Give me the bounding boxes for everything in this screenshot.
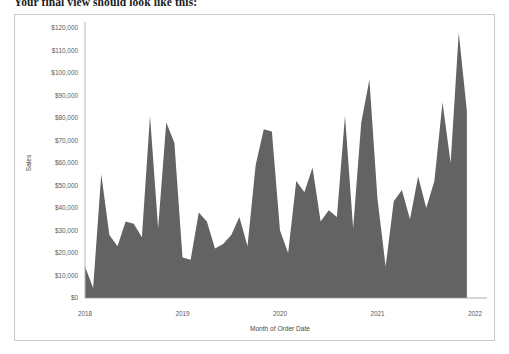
sales-area-chart: $0$10,000$20,000$30,000$40,000$50,000$60…: [15, 15, 494, 340]
y-tick-label: $80,000: [55, 114, 79, 121]
y-tick-label: $0: [71, 294, 79, 301]
screenshot-root: Your final view should look like this: $…: [0, 0, 509, 354]
x-axis-title: Month of Order Date: [250, 325, 310, 332]
y-tick-label: $30,000: [55, 227, 79, 234]
area-series: [85, 33, 467, 299]
y-tick-label: $100,000: [51, 69, 78, 76]
y-tick-label: $70,000: [55, 137, 79, 144]
x-tick-label: 2020: [273, 310, 288, 317]
y-tick-label: $110,000: [52, 47, 79, 54]
y-tick-label: $90,000: [55, 92, 79, 99]
x-tick-label: 2018: [78, 310, 93, 317]
y-axis: $0$10,000$20,000$30,000$40,000$50,000$60…: [51, 24, 78, 301]
chart-frame: $0$10,000$20,000$30,000$40,000$50,000$60…: [14, 14, 495, 341]
intro-caption: Your final view should look like this:: [14, 0, 197, 9]
y-tick-label: $10,000: [55, 272, 79, 279]
y-tick-label: $20,000: [55, 249, 79, 256]
x-tick-label: 2022: [468, 310, 483, 317]
y-axis-title: Sales: [25, 154, 32, 171]
y-tick-label: $50,000: [55, 182, 79, 189]
y-tick-label: $60,000: [55, 159, 79, 166]
x-tick-label: 2021: [370, 310, 385, 317]
area-path: [85, 33, 467, 299]
x-axis: 20182019202020212022: [78, 310, 483, 317]
x-tick-label: 2019: [175, 310, 190, 317]
y-tick-label: $40,000: [55, 204, 79, 211]
y-tick-label: $120,000: [51, 24, 78, 31]
